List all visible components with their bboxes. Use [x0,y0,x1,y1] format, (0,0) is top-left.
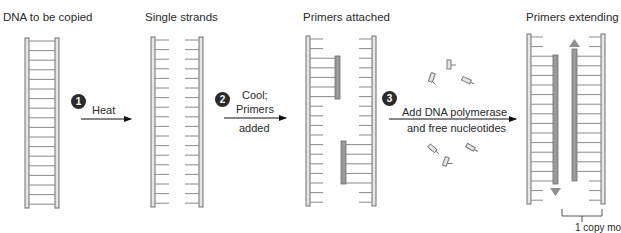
step-3-label-line-2: and free nucleotides [407,122,506,134]
dna-primers-extending [527,34,605,204]
copy-bracket [562,209,602,222]
step-2-label-line-3: added [239,122,270,134]
extending-strand-up [572,49,577,181]
dna-double-strand [25,38,59,208]
primer-top [335,56,340,99]
bottom-label: 1 copy mo [575,222,621,233]
primer-bottom [341,141,346,184]
extend-arrow-down-icon [550,188,561,196]
extending-strand-down [553,55,558,184]
dna-primers-attached [306,36,376,206]
step-1-label: Heat [92,104,115,116]
dna-single-strands [151,37,203,207]
extend-arrow-up-icon [569,39,580,47]
step-3-label-line-1: Add DNA polymerase [402,106,507,118]
step-2-label-line-2: Primers [236,103,274,115]
step-2-badge: 2 [215,92,230,107]
step-3-badge: 3 [382,91,397,106]
step-1-badge: 1 [71,94,86,109]
step-2-label-line-1: Cool; [242,89,268,101]
